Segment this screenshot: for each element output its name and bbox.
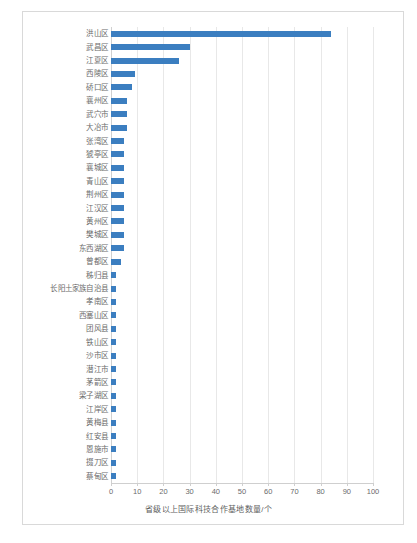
x-tick-mark — [190, 483, 191, 486]
bar-row — [111, 392, 373, 400]
bar — [111, 111, 127, 117]
bar — [111, 473, 116, 479]
bar — [111, 366, 116, 372]
bar — [111, 84, 132, 90]
bar — [111, 98, 127, 104]
bar-row — [111, 338, 373, 346]
bar-row — [111, 419, 373, 427]
bar-row — [111, 445, 373, 453]
x-tick-mark — [242, 483, 243, 486]
bar-row — [111, 57, 373, 65]
y-axis-label: 恩施市 — [24, 445, 108, 454]
x-tick-mark — [294, 483, 295, 486]
y-axis-label: 张湾区 — [24, 137, 108, 146]
y-axis-label: 黄州区 — [24, 217, 108, 226]
bar-row — [111, 191, 373, 199]
x-tick-label: 10 — [133, 487, 141, 496]
bar-row — [111, 43, 373, 51]
y-axis-label: 沙市区 — [24, 351, 108, 360]
bar — [111, 420, 116, 426]
bar-row — [111, 285, 373, 293]
bar-row — [111, 325, 373, 333]
bar-row — [111, 70, 373, 78]
y-axis-label: 襄城区 — [24, 163, 108, 172]
bar — [111, 218, 124, 224]
y-axis-label: 樊城区 — [24, 230, 108, 239]
bar — [111, 165, 124, 171]
bar-row — [111, 311, 373, 319]
x-tick-mark — [373, 483, 374, 486]
y-axis-label: 江夏区 — [24, 56, 108, 65]
x-tick-mark — [321, 483, 322, 486]
bar — [111, 259, 121, 265]
y-axis-label: 团风县 — [24, 324, 108, 333]
bar-row — [111, 177, 373, 185]
bar-row — [111, 378, 373, 386]
bar — [111, 460, 116, 466]
y-axis-label: 西陵区 — [24, 69, 108, 78]
x-tick-label: 100 — [367, 487, 380, 496]
x-axis-title: 省级以上国际科技合作基地数量/个 — [0, 503, 417, 514]
bar — [111, 178, 124, 184]
bar-row — [111, 231, 373, 239]
bar — [111, 433, 116, 439]
x-tick-mark — [163, 483, 164, 486]
x-tick-mark — [137, 483, 138, 486]
y-axis-label: 铁山区 — [24, 338, 108, 347]
y-axis-label: 红安县 — [24, 432, 108, 441]
bar — [111, 205, 124, 211]
bar-row — [111, 271, 373, 279]
bar-row — [111, 365, 373, 373]
bar-row — [111, 164, 373, 172]
y-axis-label: 江岸区 — [24, 405, 108, 414]
bar-row — [111, 83, 373, 91]
x-tick-mark — [347, 483, 348, 486]
bar-row — [111, 459, 373, 467]
bar — [111, 245, 124, 251]
y-axis-label: 大冶市 — [24, 123, 108, 132]
y-axis-label: 江汉区 — [24, 204, 108, 213]
bar — [111, 379, 116, 385]
bar-row — [111, 405, 373, 413]
bar-row — [111, 217, 373, 225]
bar-row — [111, 244, 373, 252]
bar-row — [111, 97, 373, 105]
bar — [111, 58, 179, 64]
bar — [111, 326, 116, 332]
bar — [111, 353, 116, 359]
y-axis-label: 武昌区 — [24, 43, 108, 52]
x-tick-mark — [111, 483, 112, 486]
bar — [111, 138, 124, 144]
y-axis-label: 长阳土家族自治县 — [24, 284, 108, 293]
y-axis-label: 硚口区 — [24, 83, 108, 92]
gridline-100 — [373, 27, 374, 483]
bar-row — [111, 204, 373, 212]
x-tick-label: 60 — [264, 487, 272, 496]
bar — [111, 44, 190, 50]
bar — [111, 339, 116, 345]
y-axis-label: 黄梅县 — [24, 418, 108, 427]
y-axis-label: 洪山区 — [24, 29, 108, 38]
bar — [111, 446, 116, 452]
y-axis-label: 蔡甸区 — [24, 472, 108, 481]
x-tick-label: 90 — [343, 487, 351, 496]
y-axis-label: 猇亭区 — [24, 150, 108, 159]
bar-row — [111, 258, 373, 266]
y-axis-label: 西塞山区 — [24, 311, 108, 320]
bar-row — [111, 110, 373, 118]
bar-row — [111, 298, 373, 306]
x-tick-label: 40 — [212, 487, 220, 496]
y-axis-label: 曾都区 — [24, 257, 108, 266]
bar — [111, 272, 116, 278]
y-axis-label: 东西湖区 — [24, 244, 108, 253]
y-axis-label: 孝南区 — [24, 297, 108, 306]
bar — [111, 151, 124, 157]
bar — [111, 71, 135, 77]
bar-row — [111, 472, 373, 480]
bar-row — [111, 432, 373, 440]
chart-figure: 洪山区武昌区江夏区西陵区硚口区襄州区武穴市大冶市张湾区猇亭区襄城区青山区荆州区江… — [0, 0, 417, 543]
y-axis-label: 武穴市 — [24, 110, 108, 119]
x-tick-label: 20 — [159, 487, 167, 496]
bar-row — [111, 352, 373, 360]
y-axis-label: 秭归县 — [24, 271, 108, 280]
